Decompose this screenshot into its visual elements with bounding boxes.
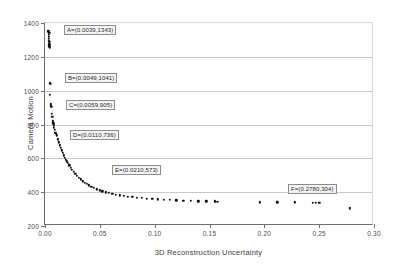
x-tick-mark bbox=[100, 224, 101, 228]
data-point bbox=[162, 198, 164, 200]
data-point bbox=[50, 106, 52, 108]
data-point bbox=[197, 200, 199, 202]
x-tick-mark bbox=[264, 224, 265, 228]
data-point bbox=[205, 200, 207, 202]
gridline bbox=[45, 158, 372, 159]
x-tick-label: 0.10 bbox=[148, 230, 161, 237]
y-tick-mark bbox=[41, 158, 45, 159]
data-point bbox=[276, 201, 278, 203]
y-tick-label: 1200 bbox=[24, 53, 39, 60]
data-point bbox=[115, 193, 117, 195]
y-tick-label: 600 bbox=[28, 155, 39, 162]
gridline bbox=[45, 91, 372, 92]
y-axis-title: Camera Motion bbox=[26, 96, 35, 150]
y-tick-mark bbox=[41, 57, 45, 58]
data-point bbox=[146, 197, 148, 199]
data-point bbox=[349, 207, 351, 209]
data-point bbox=[127, 195, 129, 197]
x-tick-label: 0.25 bbox=[312, 230, 325, 237]
x-tick-label: 0.00 bbox=[38, 230, 51, 237]
y-tick-label: 400 bbox=[28, 189, 39, 196]
data-point bbox=[294, 201, 296, 203]
data-point bbox=[51, 116, 53, 118]
data-point bbox=[318, 202, 320, 204]
data-point bbox=[49, 83, 51, 85]
data-point bbox=[56, 134, 58, 136]
data-point bbox=[169, 199, 171, 201]
x-tick-mark bbox=[155, 224, 156, 228]
x-tick-label: 0.20 bbox=[258, 230, 271, 237]
data-point bbox=[315, 202, 317, 204]
x-tick-label: 0.15 bbox=[203, 230, 216, 237]
x-tick-mark bbox=[45, 224, 46, 228]
x-tick-mark bbox=[210, 224, 211, 228]
y-tick-mark bbox=[41, 125, 45, 126]
data-point bbox=[182, 199, 184, 201]
plot-area: 200400600800100012001400 0.000.050.100.1… bbox=[44, 22, 373, 225]
annotation-f: F=(0.2780,304) bbox=[288, 184, 337, 194]
annotation-c: C=(0.0059,905) bbox=[66, 100, 115, 110]
data-point bbox=[118, 194, 120, 196]
y-tick-label: 1400 bbox=[24, 20, 39, 27]
data-point bbox=[122, 195, 124, 197]
scatter-chart: 200400600800100012001400 0.000.050.100.1… bbox=[0, 0, 395, 276]
data-point bbox=[131, 196, 133, 198]
x-axis-title: 3D Reconstruction Uncertainty bbox=[44, 248, 373, 257]
y-tick-mark bbox=[41, 23, 45, 24]
x-tick-mark bbox=[374, 224, 375, 228]
data-point bbox=[140, 197, 142, 199]
y-tick-label: 200 bbox=[28, 223, 39, 230]
annotation-e: E=(0.0210,573) bbox=[112, 165, 161, 175]
y-tick-mark bbox=[41, 91, 45, 92]
data-point bbox=[151, 198, 153, 200]
x-tick-label: 0.30 bbox=[367, 230, 380, 237]
data-point bbox=[48, 46, 50, 48]
data-point bbox=[217, 201, 219, 203]
data-point bbox=[189, 200, 191, 202]
data-point bbox=[311, 201, 313, 203]
data-point bbox=[175, 199, 177, 201]
data-point bbox=[136, 196, 138, 198]
annotation-a: A=(0.0039,1343) bbox=[64, 25, 116, 35]
x-tick-mark bbox=[319, 224, 320, 228]
data-point bbox=[157, 198, 159, 200]
x-tick-label: 0.05 bbox=[93, 230, 106, 237]
y-tick-label: 1000 bbox=[24, 87, 39, 94]
data-point bbox=[49, 94, 51, 96]
annotation-d: D=(0.0110,736) bbox=[70, 130, 119, 140]
gridline bbox=[45, 57, 372, 58]
gridline bbox=[45, 125, 372, 126]
y-tick-mark bbox=[41, 192, 45, 193]
annotation-b: B=(0.0049,1041) bbox=[65, 73, 117, 83]
data-point bbox=[259, 201, 261, 203]
